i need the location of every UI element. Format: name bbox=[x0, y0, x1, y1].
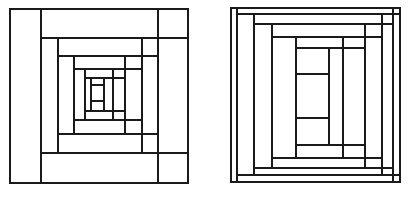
right-block-backing bbox=[231, 8, 400, 182]
right-block-figure bbox=[231, 8, 400, 182]
quilt-diagram-canvas bbox=[0, 0, 420, 197]
quilt-diagram-container bbox=[0, 0, 420, 197]
left-block-figure bbox=[10, 9, 188, 183]
left-block-backing bbox=[10, 9, 188, 183]
